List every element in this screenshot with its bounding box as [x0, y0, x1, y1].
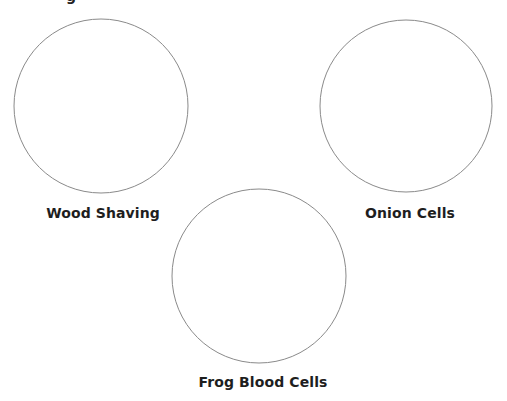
- frog-blood-cells-label: Frog Blood Cells: [199, 374, 328, 390]
- cell-observation-worksheet: g Wood Shaving Onion Cells Frog Blood Ce…: [0, 0, 507, 401]
- wood-shaving-label: Wood Shaving: [46, 205, 160, 221]
- onion-cells-drawing-circle[interactable]: [320, 20, 492, 192]
- frog-blood-cells-drawing-circle[interactable]: [172, 189, 346, 363]
- drawing-circles: [0, 0, 507, 401]
- onion-cells-label: Onion Cells: [365, 205, 455, 221]
- wood-shaving-drawing-circle[interactable]: [14, 19, 188, 193]
